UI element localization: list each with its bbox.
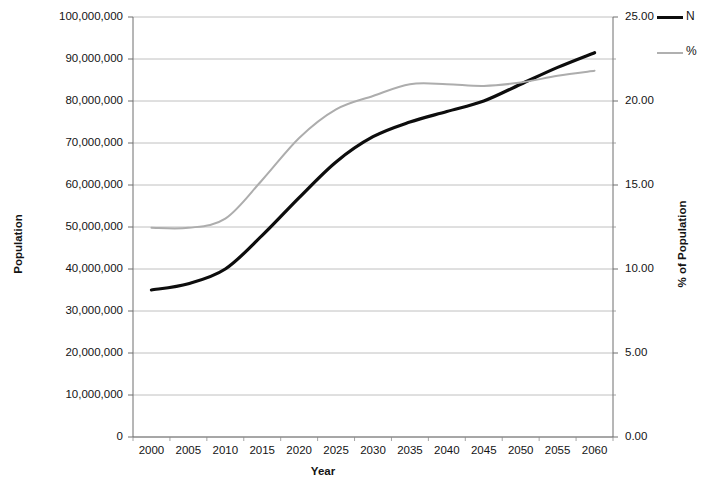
y-axis-right-tick-label: 15.00 xyxy=(625,179,654,191)
legend-line-swatch-icon xyxy=(657,52,683,54)
x-axis-tick-label: 2035 xyxy=(397,445,423,457)
x-axis-tick-label: 2045 xyxy=(471,445,497,457)
y-axis-right-tick-label: 10.00 xyxy=(625,263,654,275)
x-axis-tick-label: 2040 xyxy=(434,445,460,457)
x-axis-title: Year xyxy=(311,465,335,477)
y-axis-right-tick-label: 20.00 xyxy=(625,95,654,107)
y-axis-right-tick-label: 0.00 xyxy=(625,431,647,443)
x-axis-tick-label: 2020 xyxy=(286,445,312,457)
chart-container: 010,000,00020,000,00030,000,00040,000,00… xyxy=(0,0,707,492)
x-axis-tick-label: 2015 xyxy=(249,445,275,457)
legend-item-label: % xyxy=(686,44,697,58)
y-axis-right-tick-label: 25.00 xyxy=(625,11,654,23)
x-axis-tick-label: 2060 xyxy=(582,445,608,457)
series-line-pct xyxy=(151,71,594,229)
plot-area xyxy=(0,0,707,492)
y-axis-left-tick-label: 0 xyxy=(0,431,123,443)
axis-ticks xyxy=(128,17,618,441)
y-axis-left-tick-label: 90,000,000 xyxy=(0,53,123,65)
y-axis-left-tick-label: 30,000,000 xyxy=(0,305,123,317)
x-axis-tick-label: 2010 xyxy=(213,445,239,457)
x-axis-tick-label: 2000 xyxy=(139,445,165,457)
x-axis-tick-label: 2005 xyxy=(176,445,202,457)
y-axis-left-title: Population xyxy=(12,204,24,284)
series-line-n xyxy=(151,53,594,290)
x-axis-tick-label: 2025 xyxy=(323,445,349,457)
legend-item: N xyxy=(657,8,707,43)
legend-line-swatch-icon xyxy=(657,16,683,19)
chart-legend: N% xyxy=(657,8,707,78)
x-axis-tick-label: 2050 xyxy=(508,445,534,457)
legend-item: % xyxy=(657,43,707,78)
y-axis-left-tick-label: 80,000,000 xyxy=(0,95,123,107)
gridlines xyxy=(133,17,613,437)
y-axis-right-title: % of Population xyxy=(676,189,688,299)
y-axis-left-tick-label: 10,000,000 xyxy=(0,389,123,401)
y-axis-left-tick-label: 20,000,000 xyxy=(0,347,123,359)
y-axis-left-tick-label: 60,000,000 xyxy=(0,179,123,191)
x-axis-tick-label: 2030 xyxy=(360,445,386,457)
y-axis-left-tick-label: 70,000,000 xyxy=(0,137,123,149)
legend-item-label: N xyxy=(686,9,695,23)
y-axis-right-tick-label: 5.00 xyxy=(625,347,647,359)
x-axis-tick-label: 2055 xyxy=(545,445,571,457)
data-series xyxy=(151,53,594,290)
y-axis-left-tick-label: 100,000,000 xyxy=(0,11,123,23)
